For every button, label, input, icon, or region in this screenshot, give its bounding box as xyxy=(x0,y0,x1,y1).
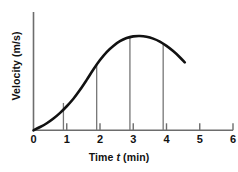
x-tick-label-3: 3 xyxy=(125,133,141,145)
x-axis-label-prefix: Time xyxy=(89,151,117,163)
x-axis-ticks xyxy=(67,123,233,130)
x-tick-label-6: 6 xyxy=(225,133,238,145)
dropline-group xyxy=(63,37,163,130)
velocity-curve xyxy=(34,36,185,130)
x-tick-label-5: 5 xyxy=(192,133,208,145)
y-axis-label: Velocity (m/s) xyxy=(10,6,22,126)
x-tick-label-2: 2 xyxy=(92,133,108,145)
x-tick-label-0: 0 xyxy=(26,133,42,145)
x-axis-label-suffix: (min) xyxy=(120,151,149,163)
x-tick-label-1: 1 xyxy=(59,133,75,145)
y-axis-label-wrapper: Velocity (m/s) xyxy=(10,6,26,126)
chart-canvas xyxy=(0,0,238,172)
x-tick-label-4: 4 xyxy=(159,133,175,145)
velocity-time-chart: 0123456 Time t (min) Velocity (m/s) xyxy=(0,0,238,172)
x-axis-label: Time t (min) xyxy=(0,151,238,163)
